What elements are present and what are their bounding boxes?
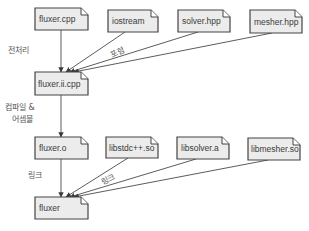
node-libstdcpp-so: libstdc++.so bbox=[106, 137, 158, 158]
build-pipeline-diagram: 전처리 포함 컴파일 & 어셈블 링크 링크 fluxer.cpp iostre… bbox=[0, 0, 309, 231]
node-iostream: iostream bbox=[108, 10, 158, 32]
node-label: libstdc++.so bbox=[109, 143, 155, 153]
node-label: mesher.hpp bbox=[254, 17, 299, 27]
node-label: fluxer.cpp bbox=[39, 14, 76, 24]
node-label: libsolver.a bbox=[181, 143, 219, 153]
edge-mesher-hpp-to-ii bbox=[74, 33, 272, 72]
node-label: libmesher.so bbox=[251, 144, 299, 154]
edge-label-include: 포함 bbox=[109, 45, 126, 60]
node-fluxer-o: fluxer.o bbox=[35, 137, 88, 159]
edge-label-preprocess: 전처리 bbox=[8, 45, 29, 55]
edges-link bbox=[61, 158, 268, 197]
page-fold-icon bbox=[81, 197, 88, 204]
edge-label-compile-1: 컴파일 & bbox=[5, 103, 35, 112]
edge-label-link-diag: 링크 bbox=[99, 172, 116, 187]
edges-preprocess bbox=[61, 30, 272, 72]
node-label: fluxer.ii.cpp bbox=[38, 79, 81, 89]
node-mesher-hpp: mesher.hpp bbox=[250, 10, 302, 33]
node-fluxer-cpp: fluxer.cpp bbox=[35, 8, 88, 30]
edge-libstdcpp-to-fluxer bbox=[66, 158, 128, 197]
node-label: solver.hpp bbox=[182, 16, 221, 26]
node-fluxer: fluxer bbox=[35, 197, 88, 219]
node-libsolver-a: libsolver.a bbox=[177, 137, 229, 159]
node-fluxer-ii-cpp: fluxer.ii.cpp bbox=[35, 72, 88, 95]
node-label: fluxer bbox=[39, 203, 60, 213]
node-label: fluxer.o bbox=[39, 143, 67, 153]
page-fold-icon bbox=[222, 137, 229, 144]
node-label: iostream bbox=[112, 16, 145, 26]
edge-solver-hpp-to-ii bbox=[70, 32, 198, 72]
page-fold-icon bbox=[81, 72, 88, 79]
page-fold-icon bbox=[81, 137, 88, 144]
edge-label-link-left: 링크 bbox=[28, 170, 42, 180]
node-solver-hpp: solver.hpp bbox=[178, 10, 230, 32]
edge-libsolver-to-fluxer bbox=[70, 159, 196, 197]
node-libmesher-so: libmesher.so bbox=[248, 138, 300, 160]
edge-label-compile-2: 어셈블 bbox=[12, 114, 33, 124]
